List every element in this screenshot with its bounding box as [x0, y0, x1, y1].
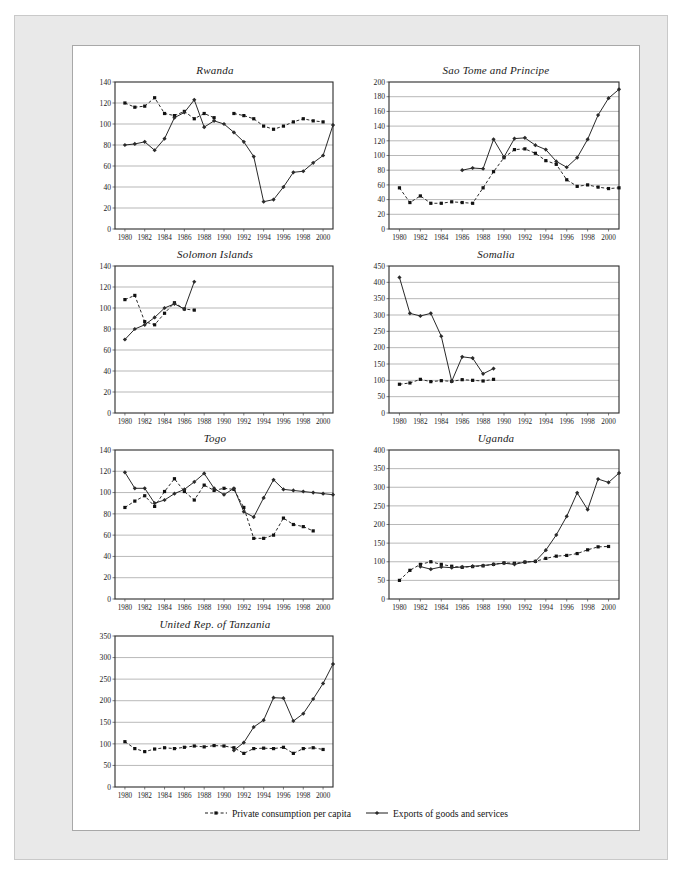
plot-background	[115, 450, 333, 599]
y-axis-tick-label: 80	[103, 325, 111, 334]
chart-panel-uganda: Uganda0501001502002503003504001980198219…	[365, 432, 627, 616]
x-axis-tick-label: 1996	[276, 234, 291, 242]
x-axis-tick-label: 2000	[316, 604, 331, 612]
data-point-marker	[596, 545, 599, 548]
data-point-marker	[133, 106, 136, 109]
x-axis-tick-label: 1984	[157, 418, 172, 426]
y-axis-tick-label: 140	[100, 446, 112, 455]
x-axis-tick-label: 1980	[392, 418, 407, 426]
y-axis-tick-label: 60	[103, 531, 111, 540]
x-axis-tick-label: 1988	[476, 234, 491, 242]
data-point-marker	[153, 747, 156, 750]
x-axis-tick-label: 1996	[276, 604, 291, 612]
data-point-marker	[252, 117, 255, 120]
x-axis-tick-label: 1990	[217, 792, 232, 800]
y-axis-tick-label: 40	[103, 183, 111, 192]
y-axis-tick-label: 20	[103, 204, 111, 213]
data-point-marker	[262, 537, 265, 540]
y-axis-tick-label: 120	[374, 137, 386, 146]
y-axis-tick-label: 40	[103, 367, 111, 376]
data-point-marker	[252, 537, 255, 540]
x-axis-tick-label: 1980	[392, 234, 407, 242]
x-axis-tick-label: 1998	[296, 234, 311, 242]
y-axis-tick-label: 200	[100, 696, 112, 705]
x-axis-tick-label: 1988	[197, 418, 212, 426]
data-point-marker	[163, 746, 166, 749]
legend-label: Private consumption per capita	[232, 808, 351, 819]
y-axis-tick-label: 80	[103, 141, 111, 150]
chart-panel-somalia: Somalia050100150200250300350400450198019…	[365, 248, 627, 430]
data-point-marker	[262, 747, 265, 750]
x-axis-tick-label: 1992	[237, 234, 252, 242]
x-axis-tick-label: 1982	[138, 792, 153, 800]
x-axis-tick-label: 2000	[316, 418, 331, 426]
data-point-marker	[173, 747, 176, 750]
chart-title: Togo	[89, 432, 341, 444]
y-axis-tick-label: 20	[103, 573, 111, 582]
data-point-marker	[408, 201, 411, 204]
data-point-marker	[252, 747, 255, 750]
data-point-marker	[471, 379, 474, 382]
data-point-marker	[492, 170, 495, 173]
y-axis-tick-label: 350	[100, 632, 112, 641]
data-point-marker	[398, 383, 401, 386]
data-point-marker	[321, 120, 324, 123]
y-axis-tick-label: 150	[374, 539, 386, 548]
y-axis-tick-label: 0	[107, 225, 111, 234]
data-point-marker	[302, 525, 305, 528]
x-axis-tick-label: 1980	[118, 234, 133, 242]
x-axis-tick-label: 1996	[560, 418, 575, 426]
x-axis-tick-label: 1986	[455, 234, 470, 242]
data-point-marker	[617, 186, 620, 189]
x-axis-tick-label: 1994	[256, 234, 271, 242]
y-axis-tick-label: 0	[107, 783, 111, 792]
data-point-marker	[523, 147, 526, 150]
y-axis-tick-label: 60	[103, 162, 111, 171]
data-point-marker	[163, 490, 166, 493]
data-point-marker	[292, 523, 295, 526]
data-point-marker	[173, 477, 176, 480]
data-point-marker	[302, 117, 305, 120]
y-axis-tick-label: 400	[374, 446, 386, 455]
data-point-marker	[123, 740, 126, 743]
x-axis-tick-label: 1990	[497, 604, 512, 612]
x-axis-tick-label: 1982	[138, 234, 153, 242]
chart-panel-solomon-islands: Solomon Islands0204060801001201401980198…	[89, 248, 341, 430]
data-point-marker	[419, 378, 422, 381]
x-axis-tick-label: 2000	[601, 418, 616, 426]
x-axis-tick-label: 1980	[118, 418, 133, 426]
legend-item-exports: Exports of goods and services	[365, 808, 508, 819]
x-axis-tick-label: 1992	[518, 604, 533, 612]
x-axis-tick-label: 1984	[434, 234, 449, 242]
chart-title: United Rep. of Tanzania	[89, 618, 341, 630]
data-point-marker	[429, 202, 432, 205]
chart-title: Sao Tome and Principe	[365, 64, 627, 76]
data-point-marker	[513, 148, 516, 151]
data-point-marker	[153, 96, 156, 99]
x-axis-tick-label: 1990	[497, 234, 512, 242]
x-axis-tick-label: 1980	[118, 792, 133, 800]
x-axis-tick-label: 1994	[539, 234, 554, 242]
data-point-marker	[429, 380, 432, 383]
data-point-marker	[565, 554, 568, 557]
x-axis-tick-label: 1996	[560, 234, 575, 242]
data-point-marker	[282, 746, 285, 749]
data-point-marker	[222, 487, 225, 490]
data-point-marker	[544, 557, 547, 560]
y-axis-tick-label: 140	[100, 262, 112, 271]
data-point-marker	[143, 494, 146, 497]
x-axis-tick-label: 1984	[157, 792, 172, 800]
chart-legend: Private consumption per capitaExports of…	[73, 803, 639, 823]
plot-background	[115, 82, 333, 229]
x-axis-tick-label: 1998	[296, 418, 311, 426]
x-axis-tick-label: 1986	[455, 418, 470, 426]
x-axis-tick-label: 1992	[237, 418, 252, 426]
y-axis-tick-label: 50	[103, 761, 111, 770]
data-point-marker	[183, 746, 186, 749]
data-point-marker	[607, 187, 610, 190]
x-axis-tick-label: 1980	[392, 604, 407, 612]
y-axis-tick-label: 140	[100, 78, 112, 87]
y-axis-tick-label: 350	[374, 464, 386, 473]
x-axis-tick-label: 1990	[497, 418, 512, 426]
x-axis-tick-label: 1988	[476, 604, 491, 612]
